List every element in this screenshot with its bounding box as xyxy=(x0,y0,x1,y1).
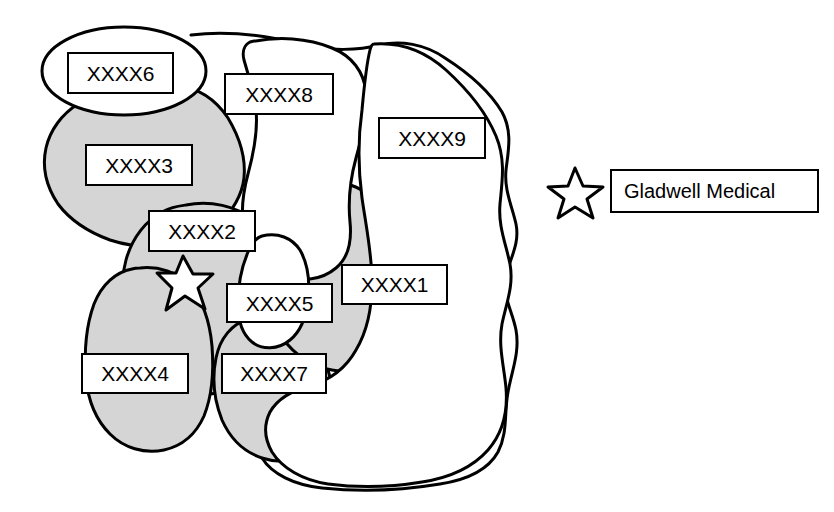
region-label-text: XXXX3 xyxy=(105,155,173,176)
region-label-xxxx6[interactable]: XXXX6 xyxy=(67,52,174,94)
region-label-xxxx9[interactable]: XXXX9 xyxy=(378,117,486,159)
legend-entry-label: Gladwell Medical xyxy=(624,180,775,203)
region-label-text: XXXX1 xyxy=(361,274,429,295)
region-label-text: XXXX6 xyxy=(87,63,155,84)
region-label-text: XXXX8 xyxy=(245,84,313,105)
region-label-text: XXXX4 xyxy=(101,363,169,384)
legend-star-icon xyxy=(548,168,603,218)
region-label-text: XXXX9 xyxy=(398,128,466,149)
region-label-xxxx5[interactable]: XXXX5 xyxy=(226,283,333,323)
legend-entry-gladwell-medical[interactable]: Gladwell Medical xyxy=(610,169,819,213)
region-label-xxxx7[interactable]: XXXX7 xyxy=(221,353,327,394)
region-label-xxxx8[interactable]: XXXX8 xyxy=(224,73,334,115)
region-label-text: XXXX5 xyxy=(246,293,314,314)
figure-canvas: XXXX6 XXXX8 XXXX9 XXXX3 XXXX2 XXXX1 XXXX… xyxy=(0,0,834,512)
region-label-text: XXXX2 xyxy=(168,221,236,242)
region-label-xxxx4[interactable]: XXXX4 xyxy=(81,353,189,394)
region-label-xxxx1[interactable]: XXXX1 xyxy=(341,264,448,305)
region-label-xxxx3[interactable]: XXXX3 xyxy=(85,144,193,186)
region-label-xxxx2[interactable]: XXXX2 xyxy=(148,210,256,252)
region-label-text: XXXX7 xyxy=(240,363,308,384)
